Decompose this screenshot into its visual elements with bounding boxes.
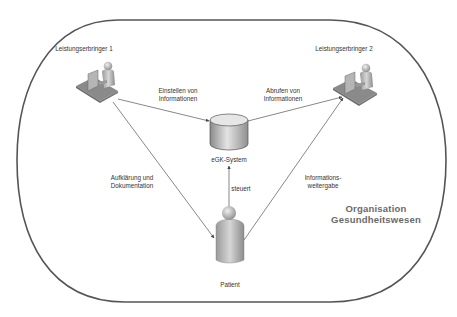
edge-label-line1: Abrufen von	[250, 87, 316, 95]
patient-label: Patient	[205, 281, 255, 289]
person-at-computer-icon	[76, 62, 118, 103]
organisation-label: Organisation Gesundheitswesen	[330, 203, 422, 225]
provider2-label: Leistungserbringer 2	[308, 45, 380, 53]
database-cylinder-icon	[210, 114, 248, 150]
edge-label-aufklaerung: Aufklärung und Dokumentation	[100, 174, 164, 189]
edge-label-informationsweitergabe: Informations- weitergabe	[300, 174, 346, 189]
edge-label-line2: Dokumentation	[100, 182, 164, 190]
edge-label-line2: Informationen	[250, 95, 316, 103]
egk-system-label: eGK-System	[200, 156, 258, 164]
edge-label-line1: steuert	[228, 185, 254, 193]
person-icon	[216, 206, 244, 263]
organisation-label-line1: Organisation	[330, 203, 422, 214]
edge-label-line1: Einstellen von	[145, 87, 211, 95]
edge-label-line1: Aufklärung und	[100, 174, 164, 182]
edge-provider1-to-egk	[118, 99, 209, 121]
edge-label-abrufen: Abrufen von Informationen	[250, 87, 316, 102]
provider1-label: Leistungserbringer 1	[48, 45, 120, 53]
person-at-computer-icon	[333, 64, 377, 106]
edge-label-line2: weitergabe	[300, 182, 346, 190]
edge-label-line1: Informations-	[300, 174, 346, 182]
edge-label-einstellen: Einstellen von Informationen	[145, 87, 211, 102]
edge-provider1-to-patient	[113, 102, 214, 238]
edge-patient-to-provider2	[244, 98, 343, 240]
edge-label-steuert: steuert	[228, 185, 254, 193]
edge-label-line2: Informationen	[145, 95, 211, 103]
organisation-label-line2: Gesundheitswesen	[330, 214, 422, 225]
